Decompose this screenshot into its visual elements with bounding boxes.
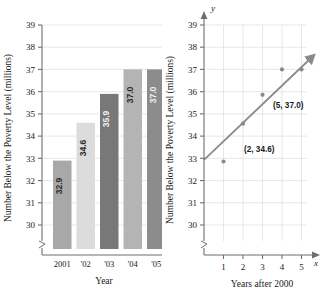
scatter-y-ticks <box>200 25 204 225</box>
scatter-xtick-1: 1 <box>221 262 226 272</box>
scatter-ytick-31: 31 <box>188 198 197 208</box>
bar-y-axis-title: Number Below the Poverty Level (millions… <box>3 54 14 222</box>
scatter-xtick-2: 2 <box>241 262 246 272</box>
scatter-ytick-30: 30 <box>188 220 198 230</box>
bar-ytick-39: 39 <box>26 20 36 30</box>
bar-ytick-30: 30 <box>26 220 36 230</box>
scatter-annotation-point-2: (2, 34.6) <box>244 145 275 154</box>
bar-xtick-2001: 2001 <box>54 259 71 269</box>
bar-x-axis-title: Year <box>95 276 113 286</box>
scatter-point-4 <box>280 67 284 71</box>
scatter-y-axis-variable: y <box>210 3 215 13</box>
bar-chart-svg: Number Below the Poverty Level (millions… <box>0 0 162 295</box>
scatter-x-axis-variable: x <box>313 258 318 268</box>
bar-value-04: 37.0 <box>125 86 135 103</box>
bar-ytick-33: 33 <box>26 154 36 164</box>
scatter-ytick-34: 34 <box>188 131 198 141</box>
scatter-xtick-4: 4 <box>280 262 285 272</box>
scatter-x-tick-labels: 1 2 3 4 5 <box>221 262 304 272</box>
bar-xtick-04: '04 <box>128 259 139 269</box>
scatter-x-axis-title: Years after 2000 <box>231 279 294 289</box>
bar-ytick-32: 32 <box>26 176 35 186</box>
bar-ytick-34: 34 <box>26 131 36 141</box>
scatter-point-2 <box>241 122 245 126</box>
bar-axis-break-icon <box>39 241 45 248</box>
bar-xtick-02: '02 <box>81 259 91 269</box>
bar-ytick-38: 38 <box>26 42 36 52</box>
scatter-chart-panel: Number Below the Poverty Level (millions… <box>162 0 324 295</box>
scatter-h-gridlines <box>204 25 307 225</box>
scatter-chart-svg: Number Below the Poverty Level (millions… <box>162 0 324 295</box>
scatter-v-gridlines <box>224 25 302 241</box>
bar-chart-panel: Number Below the Poverty Level (millions… <box>0 0 162 295</box>
scatter-ytick-36: 36 <box>188 87 198 97</box>
bar-value-02: 34.6 <box>78 139 88 156</box>
scatter-x-ticks <box>224 255 302 259</box>
two-panel-poverty-figure: Number Below the Poverty Level (millions… <box>0 0 324 295</box>
scatter-ytick-35: 35 <box>188 109 198 119</box>
bar-xtick-03: '03 <box>104 259 114 269</box>
scatter-ytick-37: 37 <box>188 65 198 75</box>
bar-value-2001: 32.9 <box>54 177 64 194</box>
scatter-annotation-point-5: (5, 37.0) <box>273 101 304 110</box>
bar-series <box>53 69 162 249</box>
bar-ytick-37: 37 <box>26 65 36 75</box>
bar-ytick-36: 36 <box>26 87 36 97</box>
bar-value-03: 35.9 <box>101 110 111 127</box>
scatter-axis-break-icon <box>201 241 207 248</box>
bar-y-tick-labels: 39 38 37 36 35 34 33 32 31 30 <box>26 20 36 230</box>
scatter-point-1 <box>221 159 225 163</box>
scatter-ytick-38: 38 <box>188 42 198 52</box>
bar-ytick-35: 35 <box>26 109 36 119</box>
bar-2001 <box>53 161 72 249</box>
scatter-y-tick-labels: 39 38 37 36 35 34 33 32 31 30 <box>188 20 198 230</box>
scatter-ytick-39: 39 <box>188 20 198 30</box>
bar-value-05: 37.0 <box>148 86 158 103</box>
scatter-ytick-32: 32 <box>188 176 197 186</box>
scatter-xtick-3: 3 <box>260 262 265 272</box>
bar-x-tick-labels: 2001 '02 '03 '04 '05 <box>54 259 162 269</box>
scatter-point-5 <box>299 67 303 71</box>
scatter-y-axis-title: Number Below the Poverty Level (millions… <box>165 56 176 224</box>
bar-xtick-05: '05 <box>151 259 161 269</box>
scatter-ytick-33: 33 <box>188 154 198 164</box>
bar-y-ticks <box>38 25 42 225</box>
scatter-point-3 <box>260 93 264 97</box>
scatter-y-axis-arrow-icon <box>201 11 208 19</box>
bar-ytick-31: 31 <box>26 198 35 208</box>
scatter-xtick-5: 5 <box>299 262 304 272</box>
